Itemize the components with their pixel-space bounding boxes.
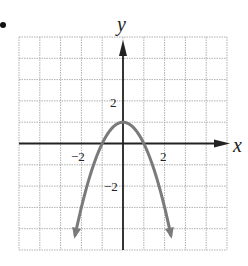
axes xyxy=(19,40,230,250)
parabola-chart: y x −2 2 2 −2 xyxy=(0,0,248,266)
curve-arrow-icon xyxy=(165,227,174,239)
y-tick-label-neg2: −2 xyxy=(104,179,118,194)
y-tick-label-2: 2 xyxy=(110,95,117,110)
bullet-marker xyxy=(0,22,6,28)
x-tick-label-2: 2 xyxy=(160,149,167,164)
y-axis-arrow-icon xyxy=(119,40,127,56)
x-axis-arrow-icon xyxy=(214,140,230,148)
x-tick-label-neg2: −2 xyxy=(71,149,85,164)
curve-arrow-icon xyxy=(72,227,81,239)
y-axis-label: y xyxy=(115,13,126,36)
x-axis-label: x xyxy=(232,134,242,156)
